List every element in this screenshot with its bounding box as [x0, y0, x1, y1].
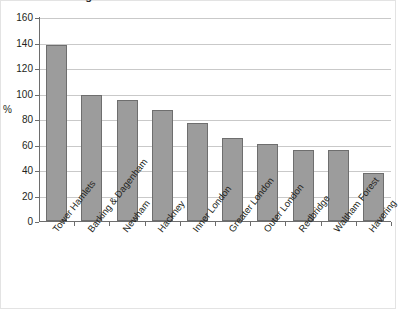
- y-tick-label: 100: [5, 90, 33, 100]
- gridline: [39, 44, 391, 45]
- y-tick-mark: [35, 222, 39, 223]
- bar: [187, 123, 208, 221]
- chart-title: London Boroughs: [7, 0, 105, 2]
- y-tick-label: 60: [5, 141, 33, 151]
- bar: [81, 95, 102, 221]
- y-tick-label: 160: [5, 13, 33, 23]
- x-axis-labels: Tower HamletsBarking & DagenhamNewhamHac…: [39, 224, 391, 309]
- y-tick-label: 0: [5, 217, 33, 227]
- y-tick-label: 40: [5, 166, 33, 176]
- y-axis-line: [39, 17, 40, 222]
- bar: [117, 100, 138, 221]
- x-tick-mark: [391, 222, 392, 226]
- y-tick-label: 80: [5, 115, 33, 125]
- y-tick-label: 20: [5, 192, 33, 202]
- gridline: [39, 69, 391, 70]
- y-tick-label: 120: [5, 64, 33, 74]
- bar: [152, 110, 173, 221]
- y-tick-label: 140: [5, 39, 33, 49]
- gridline: [39, 18, 391, 19]
- y-axis-title: %: [3, 104, 12, 115]
- bar: [46, 45, 67, 221]
